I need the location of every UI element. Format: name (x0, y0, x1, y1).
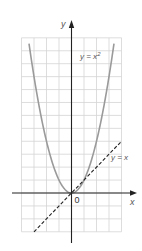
graph-figure: y x 0 y = x2 y = x (0, 0, 142, 251)
parabola-label-text: y = x (79, 52, 98, 61)
parabola-label-exponent: 2 (96, 51, 101, 57)
x-axis-arrow-icon (130, 190, 137, 195)
y-axis-label: y (60, 19, 66, 29)
parabola-label: y = x2 (79, 51, 101, 61)
origin-label: 0 (75, 195, 80, 205)
x-axis-label: x (129, 197, 135, 207)
line-label: y = x (110, 153, 129, 162)
line-y-equals-x (34, 141, 122, 232)
y-axis-arrow-icon (69, 20, 74, 28)
